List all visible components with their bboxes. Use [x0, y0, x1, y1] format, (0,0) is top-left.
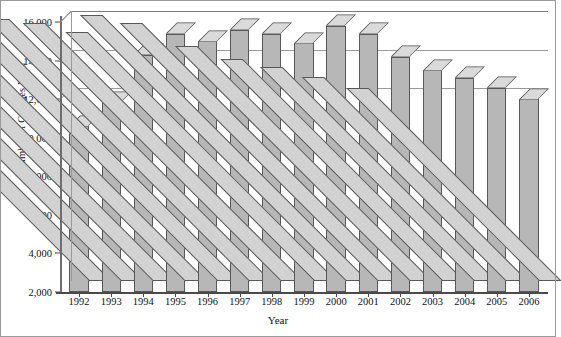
x-axis-line — [56, 292, 548, 294]
y-axis-line — [60, 16, 62, 294]
y-axis-back-line — [71, 11, 72, 281]
bar-top-face — [262, 23, 292, 34]
bar-top-face — [359, 23, 389, 34]
bar-top-face — [326, 15, 356, 26]
y-tick-label: 4,000 — [6, 248, 52, 259]
x-tick-label: 2006 — [509, 296, 549, 307]
bar-top-face — [423, 59, 453, 70]
bar-2005 — [487, 77, 517, 292]
bar-top-face — [198, 30, 228, 41]
bar-2006 — [519, 88, 549, 292]
x-axis-title: Year — [0, 314, 556, 326]
bar-top-face — [455, 67, 485, 78]
bar-top-face — [519, 88, 549, 99]
bar-top-face — [294, 32, 324, 43]
y-tick-label: 2,000 — [6, 287, 52, 298]
gridline — [71, 11, 548, 12]
bar-top-face — [230, 19, 260, 30]
bar-top-face — [487, 77, 517, 88]
bar-top-face — [166, 23, 196, 34]
bar-top-face — [391, 46, 421, 57]
